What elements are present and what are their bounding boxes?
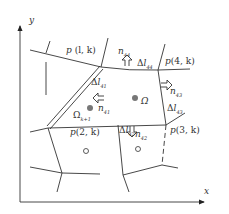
edge-label-dl43: Δl43 [167,104,183,115]
cell-label-p-2k: p(2, k) [70,128,100,137]
point-cell-42 [136,147,141,152]
normal-label-n44: n44 [118,47,130,58]
cell-label-p-lk: p (l, k) [66,46,96,55]
y-axis-label: y [29,16,34,25]
domain-label-omega: Ω [141,97,148,106]
edge-label-dl42: Δl42 [119,126,135,137]
x-axis-label: x [204,187,209,196]
normal-label-n41: n41 [98,104,110,115]
normal-label-n42: n42 [135,130,147,141]
cell-label-p-4k: p(4, k) [165,57,195,66]
domain-label-omega-k1: Ωk+1 [73,111,91,122]
point-cell-2k [84,149,89,154]
edge-label-dl44: Δl44 [137,59,153,70]
normal-arrow-41 [93,93,104,103]
point-omega [132,95,138,101]
cell-label-p-3k: p(3, k) [170,126,200,135]
mesh-diagram [0,0,229,214]
normal-label-n43: n43 [170,87,182,98]
edge-label-dl41: Δl41 [91,78,107,89]
